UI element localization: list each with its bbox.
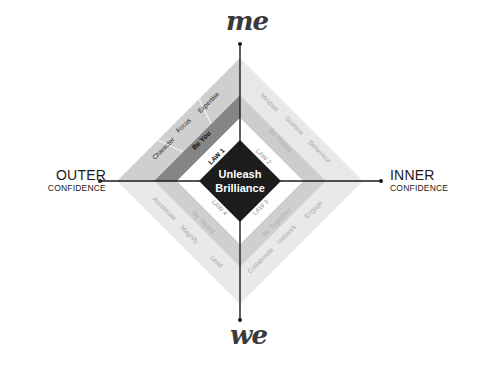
axis-dot-top bbox=[238, 42, 242, 46]
center-line-1: Unleash bbox=[219, 168, 262, 180]
axis-label-we: we bbox=[230, 320, 267, 350]
unleash-brilliance-diagram: Character Focus Expertise Be You LAW 1 M… bbox=[0, 0, 479, 367]
inner-title: INNER bbox=[390, 168, 470, 182]
axis-label-inner-confidence: INNER CONFIDENCE bbox=[390, 168, 470, 193]
axis-label-me: me bbox=[226, 6, 268, 36]
outer-subtitle: CONFIDENCE bbox=[34, 184, 106, 193]
outer-title: OUTER bbox=[34, 168, 106, 182]
axis-label-outer-confidence: OUTER CONFIDENCE bbox=[34, 168, 106, 193]
center-line-2: Brilliance bbox=[215, 182, 265, 194]
inner-subtitle: CONFIDENCE bbox=[390, 184, 470, 193]
axis-dot-right bbox=[379, 179, 383, 183]
